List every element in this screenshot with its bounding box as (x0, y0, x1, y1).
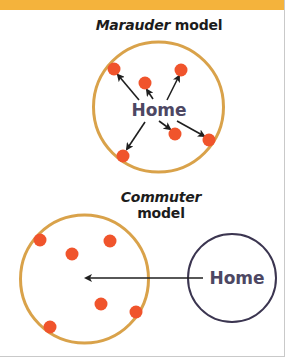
target-dot (108, 63, 121, 76)
target-dot (34, 234, 47, 247)
commuter-dots (34, 234, 143, 334)
commuter-diagram: Home (21, 215, 277, 343)
marauder-home-label: Home (131, 100, 186, 120)
arrow-icon (159, 121, 170, 129)
target-dot (95, 298, 108, 311)
target-dot (139, 77, 152, 90)
arrow-icon (147, 90, 153, 99)
arrow-icon (167, 76, 179, 100)
target-dot (175, 64, 188, 77)
target-dot (169, 128, 182, 141)
target-dot (203, 134, 216, 147)
commuter-home-label: Home (209, 268, 264, 288)
target-dot (66, 248, 79, 261)
target-dot (130, 306, 143, 319)
target-dot (104, 235, 117, 248)
target-dot (44, 321, 57, 334)
models-diagram: Home Home (0, 0, 289, 364)
arrow-icon (118, 75, 139, 100)
target-dot (117, 150, 130, 163)
marauder-diagram: Home (94, 42, 224, 172)
arrow-icon (127, 122, 145, 149)
